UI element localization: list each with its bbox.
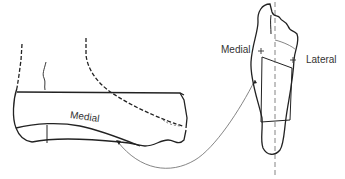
foot-orthotic-diagram [0, 0, 345, 179]
marker-plus-icon [258, 48, 296, 63]
sole-lateral-label: Lateral [306, 55, 337, 65]
sole-view-foot [251, 4, 298, 154]
sole-medial-label: Medial [221, 45, 250, 55]
side-view-foot [13, 38, 187, 146]
